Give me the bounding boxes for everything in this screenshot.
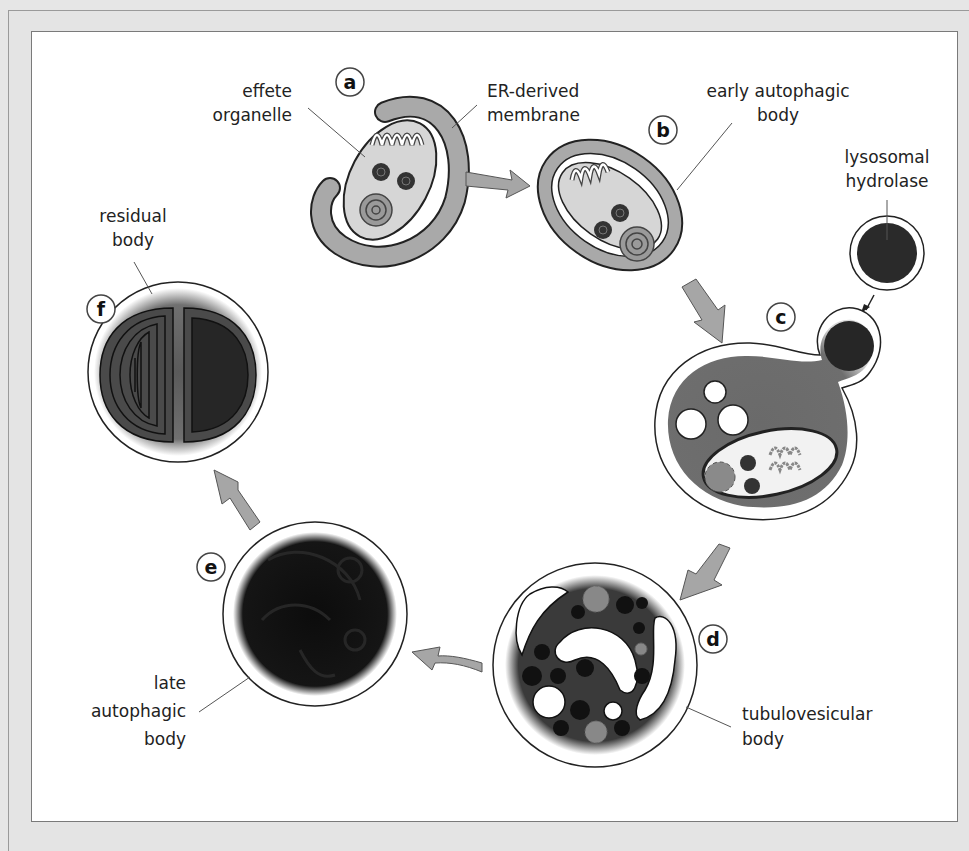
arrow-a-to-b: [466, 170, 530, 198]
stage-d-tubulovesicular-body: [493, 563, 697, 767]
label-lysosomal-hydrolase: lysosomal hydrolase: [845, 147, 930, 240]
svg-text:body: body: [112, 230, 154, 250]
badge-b: b: [649, 116, 677, 144]
svg-text:body: body: [144, 729, 186, 749]
svg-text:b: b: [656, 119, 670, 141]
arrow-e-to-f: [214, 470, 260, 530]
svg-text:late: late: [154, 673, 186, 693]
svg-text:organelle: organelle: [213, 105, 292, 125]
badge-a: a: [336, 68, 364, 96]
svg-text:body: body: [757, 105, 799, 125]
svg-text:hydrolase: hydrolase: [845, 171, 928, 191]
svg-text:lysosomal: lysosomal: [845, 147, 930, 167]
svg-text:membrane: membrane: [487, 105, 580, 125]
stage-e-late-autophagic-body: [223, 522, 407, 706]
badge-e: e: [197, 553, 225, 581]
svg-text:early autophagic: early autophagic: [706, 81, 849, 101]
svg-text:tubulovesicular: tubulovesicular: [742, 704, 872, 724]
arrow-c-to-d: [680, 544, 730, 600]
svg-text:body: body: [742, 729, 784, 749]
stage-a-phagophore: [321, 105, 459, 257]
badge-c: c: [767, 303, 795, 331]
label-early-autophagic-body: early autophagic body: [677, 81, 850, 190]
svg-text:d: d: [706, 628, 720, 650]
badge-d: d: [699, 625, 727, 653]
label-late-autophagic-body: late autophagic body: [91, 673, 250, 749]
svg-text:residual: residual: [99, 206, 166, 226]
arrow-b-to-c: [682, 279, 725, 343]
svg-text:e: e: [205, 556, 218, 578]
label-er-derived-membrane: ER-derived membrane: [452, 81, 580, 128]
arrow-d-to-e: [412, 647, 482, 672]
label-residual-body: residual body: [99, 206, 166, 294]
label-tubulovesicular-body: tubulovesicular body: [686, 704, 872, 749]
badge-f: f: [87, 295, 115, 323]
svg-text:c: c: [775, 306, 786, 328]
svg-text:effete: effete: [242, 81, 292, 101]
svg-text:ER-derived: ER-derived: [487, 81, 579, 101]
stage-c-fusion: [655, 308, 881, 520]
svg-text:a: a: [344, 71, 357, 93]
svg-text:autophagic: autophagic: [91, 701, 186, 721]
svg-text:f: f: [97, 298, 106, 320]
stage-b-early-autophagic-body: [513, 113, 707, 297]
